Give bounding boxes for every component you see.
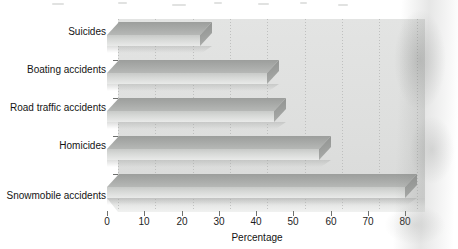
x-axis-tick-label-80: 80 [392,216,418,228]
category-label-snowmobile-accidents: Snowmobile accidents [7,190,107,202]
x-axis-tick-label-0: 0 [94,216,120,228]
x-axis-tick-label-10: 10 [131,216,157,228]
category-label-suicides: Suicides [68,26,106,38]
x-axis-tick-label-70: 70 [355,216,381,228]
category-label-boating-accidents: Boating accidents [27,64,106,76]
x-axis-tick-label-50: 50 [280,216,306,228]
category-label-homicides: Homicides [59,140,106,152]
x-axis-tick-label-60: 60 [318,216,344,228]
x-axis-tick-label-30: 30 [206,216,232,228]
x-axis-tick-label-40: 40 [243,216,269,228]
x-axis-tick-label-20: 20 [169,216,195,228]
chart-screenshot: Suicides Boating accidents Road traffic … [0,0,458,249]
x-axis-title: Percentage [0,232,458,243]
category-label-road-traffic-accidents: Road traffic accidents [10,102,106,114]
